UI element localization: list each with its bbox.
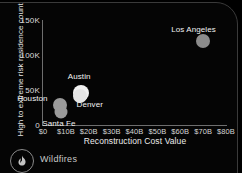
footer-label: Wildfires — [40, 154, 77, 164]
scatter-chart: 050K100K150K $0$10B$20B$30B$40B$50B$60B$… — [0, 0, 242, 145]
data-point-label: Denver — [77, 100, 103, 109]
x-tick-label: $20B — [80, 127, 98, 136]
y-axis-line — [42, 20, 43, 126]
x-tick-label: $70B — [194, 127, 212, 136]
data-point-label: Austin — [68, 72, 91, 81]
x-tick-label: $10B — [57, 127, 75, 136]
data-point-label: Los Angeles — [171, 25, 216, 34]
x-tick-label: $30B — [103, 127, 121, 136]
x-tick-label: $80B — [217, 127, 235, 136]
data-point[interactable] — [55, 105, 68, 118]
flame-icon — [10, 149, 34, 173]
data-point[interactable] — [196, 34, 210, 48]
data-point-label: Santa Fe — [42, 119, 75, 128]
y-axis-title: High to extreme risk residence count — [16, 17, 25, 137]
card-footer: Wildfires — [0, 145, 242, 173]
x-tick-label: $40B — [126, 127, 144, 136]
x-tick-label: $0 — [39, 127, 48, 136]
x-tick-label: $50B — [148, 127, 166, 136]
x-tick-label: $60B — [171, 127, 189, 136]
